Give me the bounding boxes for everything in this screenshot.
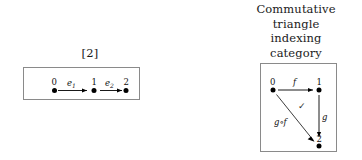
node-label-2: 2 xyxy=(317,135,322,144)
right-diagram-box: 0 1 2 f g g∘f ✓ xyxy=(260,63,337,152)
node-label-2: 2 xyxy=(124,78,129,87)
left-figure-panel: [2] 0 1 2 e1 e2 xyxy=(0,0,180,160)
right-figure-caption: Commutative triangle indexing category xyxy=(230,2,362,60)
edge-label-e1: e1 xyxy=(67,79,76,88)
node-label-1: 1 xyxy=(317,78,322,87)
node-dot-1 xyxy=(317,88,322,93)
left-diagram-box: 0 1 2 e1 e2 xyxy=(23,67,140,100)
caption-line-3: indexing xyxy=(230,31,362,46)
commutes-check-icon: ✓ xyxy=(298,102,306,111)
node-dot-1 xyxy=(92,88,97,93)
node-label-0: 0 xyxy=(52,78,57,87)
edge-label-e1-subscript: 1 xyxy=(72,82,76,89)
edge-label-g-composed-f: g∘f xyxy=(274,118,287,127)
node-dot-2 xyxy=(317,144,322,149)
edge-label-f: f xyxy=(293,78,296,87)
caption-line-2: triangle xyxy=(230,17,362,32)
right-figure-panel: Commutative triangle indexing category 0… xyxy=(230,0,362,160)
edge-e1-arrowhead xyxy=(82,88,87,92)
edge-label-e2: e2 xyxy=(105,79,114,88)
caption-line-4: category xyxy=(230,46,362,61)
node-dot-2 xyxy=(124,88,129,93)
left-figure-caption: [2] xyxy=(0,47,180,60)
edge-label-g: g xyxy=(322,113,327,122)
edge-f-arrowhead xyxy=(308,88,313,92)
edge-label-e2-subscript: 2 xyxy=(110,82,114,89)
caption-line-1: Commutative xyxy=(230,2,362,17)
node-dot-0 xyxy=(271,88,276,93)
edge-gof-arrowhead xyxy=(308,136,315,141)
edge-e2-arrowhead xyxy=(117,88,122,92)
node-dot-0 xyxy=(52,88,57,93)
node-label-0: 0 xyxy=(270,78,275,87)
node-label-1: 1 xyxy=(92,78,97,87)
